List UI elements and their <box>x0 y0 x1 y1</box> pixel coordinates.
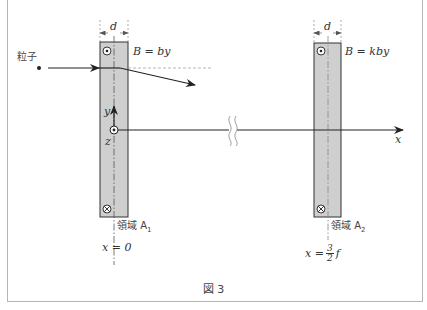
particle-label: 粒子 <box>17 52 37 62</box>
particle-dot <box>37 66 41 70</box>
axis-break-icon <box>229 116 231 146</box>
field-in-icon <box>317 205 325 213</box>
region-a1-width-label: d <box>110 21 117 32</box>
region-a2-position-label: x =32f <box>305 244 340 263</box>
x-axis <box>118 116 403 146</box>
region-a2-field-label: B = kby <box>345 46 389 57</box>
y-axis-label: y <box>104 106 110 117</box>
field-in-icon <box>103 205 111 213</box>
region-a1-field-label: B = by <box>133 46 171 57</box>
x-axis-label: x <box>395 134 401 145</box>
z-axis-label: z <box>105 136 111 147</box>
region-a2-name: 領域 A2 <box>331 221 366 234</box>
region-a2-width-label: d <box>324 21 331 32</box>
region-a1-name: 領域 A1 <box>117 221 152 234</box>
region-a1-position-label: x = 0 <box>102 242 131 253</box>
z-axis-out-icon <box>110 126 118 134</box>
figure-caption: 図 3 <box>0 280 427 296</box>
